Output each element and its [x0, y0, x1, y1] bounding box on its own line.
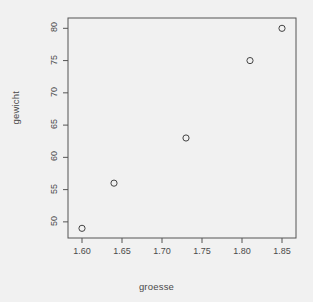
y-tick-label: 70	[49, 83, 59, 101]
y-axis-title: gewicht	[10, 111, 21, 125]
plot-canvas	[0, 0, 313, 302]
y-tick-label: 80	[49, 18, 59, 36]
y-tick-label: 55	[49, 180, 59, 198]
x-tick-label: 1.75	[185, 246, 219, 256]
x-tick-label: 1.80	[225, 246, 259, 256]
figure-background	[0, 0, 313, 302]
y-tick-label: 50	[49, 212, 59, 230]
y-tick-label: 65	[49, 115, 59, 133]
y-tick-label: 75	[49, 51, 59, 69]
x-tick-label: 1.85	[265, 246, 299, 256]
x-axis-title: groesse	[0, 281, 313, 292]
x-tick-label: 1.65	[105, 246, 139, 256]
scatter-plot-figure: 1.601.651.701.751.801.85 50556065707580 …	[0, 0, 313, 302]
x-tick-label: 1.60	[65, 246, 99, 256]
y-tick-label: 60	[49, 147, 59, 165]
x-tick-label: 1.70	[145, 246, 179, 256]
